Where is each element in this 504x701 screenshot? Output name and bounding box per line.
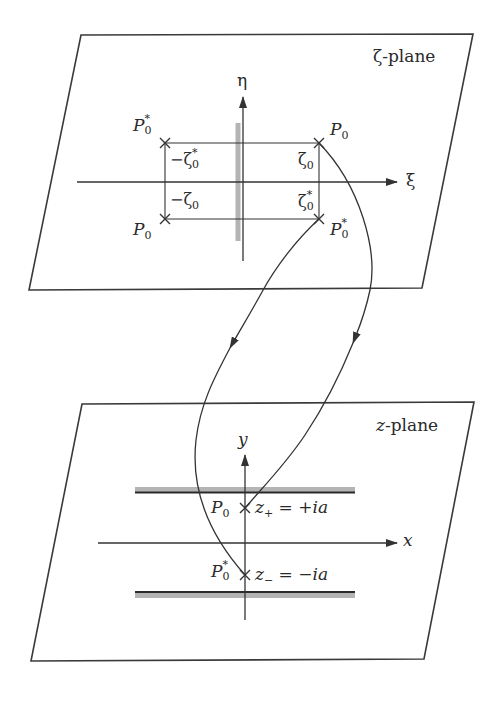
value-text: ζ (298, 150, 307, 169)
y-axis-label: y (238, 431, 248, 448)
x-axis-label: x (403, 532, 413, 549)
value-text: ζ (298, 192, 307, 211)
point-sup: * (341, 217, 347, 228)
value-sub: 0 (192, 159, 199, 170)
value-lower-right: ζ*0 (298, 194, 315, 210)
value-sub: 0 (307, 159, 314, 172)
value-sup: * (192, 147, 198, 158)
point-label-upper-right: P0 (330, 121, 348, 141)
point-sub: 0 (341, 229, 348, 240)
point-label-p0-star-z: P*0 (211, 563, 230, 580)
eq-rhs: ia (313, 497, 329, 517)
value-text: −ζ (170, 190, 192, 209)
equation-z-minus: z− = −ia (255, 566, 328, 586)
point-sub: 0 (341, 129, 348, 142)
eq-rhs: ia (313, 564, 329, 584)
point-sub: 0 (222, 571, 229, 582)
diagram-graphics (0, 0, 504, 701)
point-name: P (211, 561, 222, 581)
point-label-lower-left: P0 (133, 221, 151, 241)
point-sup: * (144, 113, 150, 124)
point-name: P (133, 115, 144, 135)
mapping-curve-p0 (319, 143, 372, 343)
zeta-plane-title: ζ-plane (373, 48, 435, 65)
diagram-stage: ζ-plane η ξ P*0 P0 P0 P*0 −ζ*0 ζ0 −ζ0 ζ*… (0, 0, 504, 701)
point-label-lower-right: P*0 (330, 221, 349, 238)
value-sup: * (307, 189, 313, 200)
mapping-curve-p0-continued (245, 343, 353, 508)
value-upper-left: −ζ*0 (170, 152, 200, 168)
z-plane-title-var: z (376, 415, 385, 435)
point-sub: 0 (144, 229, 151, 242)
z-plane-title: z-plane (376, 417, 438, 434)
eta-axis-label: η (237, 72, 247, 89)
value-upper-right: ζ0 (298, 152, 314, 171)
eq-sub: + (264, 507, 273, 520)
point-sup: * (222, 559, 228, 570)
z-plane-title-rest: -plane (385, 415, 438, 435)
point-label-p0-z: P0 (211, 499, 229, 519)
point-sub: 0 (222, 507, 229, 520)
point-name: P (330, 219, 341, 239)
eq-sign: = − (279, 564, 313, 584)
equation-z-plus: z+ = +ia (255, 499, 328, 519)
zeta-plane-outline (29, 34, 473, 290)
value-lower-left: −ζ0 (170, 192, 199, 211)
eq-sign: = + (279, 497, 313, 517)
point-name: P (211, 497, 222, 517)
value-sub: 0 (192, 199, 199, 212)
point-label-upper-left: P*0 (133, 117, 152, 134)
eq-sub: − (264, 574, 273, 587)
eq-var: z (255, 497, 264, 517)
eq-var: z (255, 564, 264, 584)
point-name: P (133, 219, 144, 239)
xi-axis-label: ξ (406, 172, 415, 189)
value-text: −ζ (170, 150, 192, 169)
point-sub: 0 (144, 125, 151, 136)
point-name: P (330, 119, 341, 139)
mapping-curve-p0-star-continued (195, 348, 245, 575)
value-sub: 0 (307, 201, 314, 212)
